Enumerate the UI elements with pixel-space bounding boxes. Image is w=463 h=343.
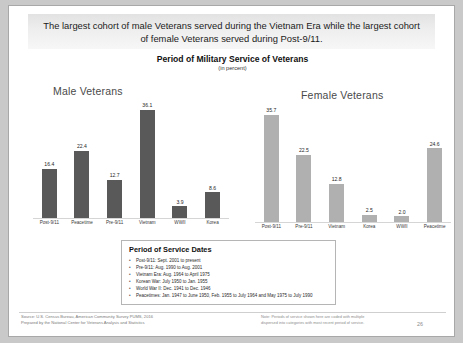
bar-slot: 16.4	[34, 99, 64, 218]
x-tick-label: WWII	[165, 220, 195, 225]
female-x-axis-labels: Post-9/11 Pre-9/11 Vietnam Korea WWII Pe…	[255, 224, 451, 229]
bar	[107, 180, 122, 218]
x-tick-label: Korea	[354, 224, 384, 229]
chart-title: Period of Military Service of Veterans	[9, 54, 455, 64]
female-bars: 35.7 22.5 12.8 2.5 2.0 24.6	[255, 103, 451, 222]
bar	[205, 192, 220, 218]
list-item-label: Post-9/11: Sept. 2001 to present	[136, 257, 200, 264]
bar	[42, 169, 57, 218]
bar-slot: 2.0	[387, 103, 417, 222]
footer-divider	[19, 312, 446, 313]
bar-value-label: 12.7	[110, 172, 120, 178]
bar	[74, 151, 89, 218]
list-item-label: Pre-9/11: Aug. 1990 to Aug. 2001	[136, 264, 202, 271]
female-panel-title: Female Veterans	[301, 89, 383, 101]
bullet-icon: •	[129, 285, 136, 292]
bar-value-label: 22.4	[77, 143, 87, 149]
x-tick-label: Post-9/11	[256, 224, 286, 229]
list-item: • Korean War: July 1950 to Jan. 1955	[129, 278, 329, 285]
chart-subtitle: (in percent)	[9, 65, 455, 71]
male-panel-title: Male Veterans	[53, 85, 123, 97]
x-tick-label: Vietnam	[322, 224, 352, 229]
bar	[264, 115, 279, 222]
bar-value-label: 24.6	[430, 141, 440, 147]
male-x-axis-labels: Post-9/11 Peacetime Pre-9/11 Vietnam WWI…	[33, 220, 229, 225]
bar-value-label: 36.1	[142, 102, 152, 108]
x-tick-label: Vietnam	[132, 220, 162, 225]
period-of-service-dates-box: Period of Service Dates • Post-9/11: Sep…	[121, 240, 336, 305]
male-axis-line	[33, 218, 229, 219]
list-item-label: World War II: Dec. 1941 to Dec. 1946	[136, 285, 211, 292]
list-item-label: Vietnam Era: Aug. 1964 to April 1975	[136, 271, 210, 278]
bar-slot: 12.7	[100, 99, 130, 218]
bar-value-label: 2.5	[366, 207, 373, 213]
bar-value-label: 35.7	[266, 107, 276, 113]
bullet-icon: •	[129, 292, 136, 299]
bullet-icon: •	[129, 271, 136, 278]
bar-slot: 12.8	[322, 103, 352, 222]
headline-line-1: The largest cohort of male Veterans serv…	[43, 19, 420, 32]
female-veterans-bar-chart: 35.7 22.5 12.8 2.5 2.0 24.6	[255, 103, 451, 223]
list-item: • Pre-9/11: Aug. 1990 to Aug. 2001	[129, 264, 329, 271]
bar-slot: 22.5	[289, 103, 319, 222]
female-axis-line	[255, 222, 451, 223]
bar-value-label: 22.5	[299, 147, 309, 153]
list-item: • Vietnam Era: Aug. 1964 to April 1975	[129, 271, 329, 278]
x-tick-label: Peacetime	[420, 224, 450, 229]
bar-value-label: 12.8	[332, 176, 342, 182]
bar-value-label: 3.9	[176, 199, 183, 205]
bar-value-label: 16.4	[44, 161, 54, 167]
bar	[172, 206, 187, 218]
list-item: • Post-9/11: Sept. 2001 to present	[129, 257, 329, 264]
list-item: • World War II: Dec. 1941 to Dec. 1946	[129, 285, 329, 292]
bar	[296, 155, 311, 223]
bar-slot: 36.1	[132, 99, 162, 218]
bar-slot: 8.6	[198, 99, 228, 218]
x-tick-label: Korea	[198, 220, 228, 225]
legend-title: Period of Service Dates	[129, 245, 329, 254]
headline-banner: The largest cohort of male Veterans serv…	[28, 14, 435, 49]
bar-value-label: 8.6	[209, 185, 216, 191]
x-tick-label: Pre-9/11	[289, 224, 319, 229]
slide-canvas: The largest cohort of male Veterans serv…	[8, 5, 455, 337]
footnote: Note: Periods of service shown here are …	[261, 314, 411, 326]
bar	[329, 184, 344, 222]
bar-slot: 22.4	[67, 99, 97, 218]
bar-value-label: 2.0	[398, 209, 405, 215]
list-item-label: Korean War: July 1950 to Jan. 1955	[136, 278, 208, 285]
bar-slot: 24.6	[420, 103, 450, 222]
x-tick-label: Peacetime	[67, 220, 97, 225]
x-tick-label: WWII	[387, 224, 417, 229]
headline-line-2: of female Veterans served during Post-9/…	[140, 32, 322, 45]
bar-slot: 2.5	[354, 103, 384, 222]
list-item: • Peacetimes: Jan. 1947 to June 1950, Fe…	[129, 292, 329, 299]
bar	[427, 148, 442, 222]
male-bars: 16.4 22.4 12.7 36.1 3.9 8.6	[33, 99, 229, 218]
x-tick-label: Post-9/11	[34, 220, 64, 225]
bullet-icon: •	[129, 278, 136, 285]
bar-slot: 3.9	[165, 99, 195, 218]
male-veterans-bar-chart: 16.4 22.4 12.7 36.1 3.9 8.6	[33, 99, 229, 219]
bullet-icon: •	[129, 264, 136, 271]
bar	[362, 215, 377, 223]
source-credit: Source: U.S. Census Bureau, American Com…	[21, 314, 271, 326]
page-number: 26	[417, 321, 423, 327]
bullet-icon: •	[129, 257, 136, 264]
x-tick-label: Pre-9/11	[100, 220, 130, 225]
prepared-by-line: Prepared by the National Center for Vete…	[21, 320, 271, 326]
bar	[140, 110, 155, 218]
footnote-line-2: dispersed into categories with most rece…	[261, 320, 411, 326]
list-item-label: Peacetimes: Jan. 1947 to June 1950, Feb.…	[136, 292, 313, 299]
bar-slot: 35.7	[256, 103, 286, 222]
